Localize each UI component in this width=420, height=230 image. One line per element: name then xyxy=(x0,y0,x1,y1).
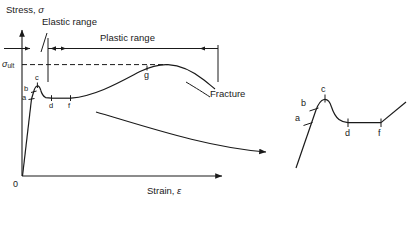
curve-yield-drop-segment xyxy=(41,91,52,99)
inset-point-label-a: a xyxy=(295,114,300,123)
point-label-d: d xyxy=(49,102,53,110)
y-axis-label: Stress, σ xyxy=(6,5,44,15)
y-axis-label-text: Stress, xyxy=(6,4,36,15)
point-label-b: b xyxy=(24,85,28,93)
sigma-ult-label: σult xyxy=(2,60,14,70)
x-axis-label-text: Strain, xyxy=(147,185,174,196)
point-label-a: a xyxy=(22,94,26,102)
origin-label: 0 xyxy=(13,180,18,189)
inset-tick-point-b xyxy=(310,108,319,111)
inset-yield-drop-segment xyxy=(332,107,349,123)
inset-point-label-d: d xyxy=(345,129,350,138)
fracture-label: Fracture xyxy=(210,89,245,99)
x-axis-label-symbol: ε xyxy=(177,185,181,196)
point-label-c: c xyxy=(35,74,39,82)
x-axis-label: Strain, ε xyxy=(147,186,181,196)
inset-point-label-b: b xyxy=(301,99,306,108)
inset-strain-hardening-segment xyxy=(381,102,406,123)
inset-point-label-f: f xyxy=(378,129,381,138)
y-axis-label-symbol: σ xyxy=(38,4,44,15)
inset-callout-arrow xyxy=(96,112,266,152)
plastic-range-label: Plastic range xyxy=(100,33,155,43)
curve-elastic-segment xyxy=(23,99,32,176)
fracture-leader-line xyxy=(186,82,210,97)
inset-point-label-c: c xyxy=(321,85,326,94)
stress-strain-figure: Stress, σ Strain, ε 0 σult Elastic range… xyxy=(0,0,420,230)
tick-point-a xyxy=(29,99,35,100)
elastic-range-leader-line xyxy=(41,33,47,52)
curve-strain-hardening-segment xyxy=(71,65,168,99)
elastic-range-label: Elastic range xyxy=(42,17,97,27)
point-label-g: g xyxy=(144,71,149,80)
sigma-ult-subscript: ult xyxy=(7,62,14,69)
figure-canvas xyxy=(0,0,420,230)
point-label-f: f xyxy=(68,102,70,110)
